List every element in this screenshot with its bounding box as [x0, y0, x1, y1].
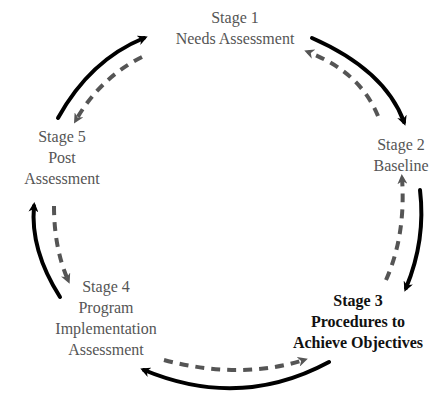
stage-1-label: Needs Assessment [150, 28, 320, 49]
arrow-stage2-to-stage3 [406, 190, 421, 288]
stage-1-title: Stage 1 [150, 7, 320, 28]
stage-4-node: Stage 4 Program Implementation Assessmen… [36, 276, 176, 360]
stage-5-label-line-1: Post [12, 147, 112, 168]
stage-1-node: Stage 1 Needs Assessment [150, 7, 320, 49]
stage-3-label-line-1: Procedures to [272, 311, 444, 332]
stage-2-title: Stage 2 [358, 134, 444, 155]
stage-3-title: Stage 3 [272, 290, 444, 311]
arrow-stage5-to-stage1 [58, 38, 144, 118]
arrow-stage3-to-stage2-dashed [386, 178, 403, 280]
stage-4-label-line-3: Assessment [36, 339, 176, 360]
stage-3-label-line-2: Achieve Objectives [272, 332, 444, 353]
arrow-stage5-to-stage4-dashed [54, 206, 68, 280]
stage-4-label-line-1: Program [36, 297, 176, 318]
arrow-stage3-to-stage4 [144, 362, 329, 388]
arrow-stage4-to-stage3-dashed [164, 360, 304, 370]
arrow-stage1-to-stage5-dashed [76, 57, 142, 120]
stage-2-label: Baseline [358, 155, 444, 176]
stage-3-node: Stage 3 Procedures to Achieve Objectives [272, 290, 444, 353]
stage-4-label-line-2: Implementation [36, 318, 176, 339]
stage-5-title: Stage 5 [12, 126, 112, 147]
stage-4-title: Stage 4 [36, 276, 176, 297]
stage-5-label-line-2: Assessment [12, 168, 112, 189]
stage-5-node: Stage 5 Post Assessment [12, 126, 112, 189]
arrow-stage2-to-stage1-dashed [308, 52, 378, 116]
arrow-stage1-to-stage2 [312, 38, 404, 122]
stage-2-node: Stage 2 Baseline [358, 134, 444, 176]
